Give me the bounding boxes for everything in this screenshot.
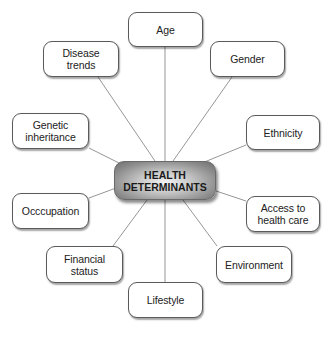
node-occupation: Occcupation xyxy=(12,193,89,229)
connector-ethnicity xyxy=(202,145,246,163)
node-disease-trends: Disease trends xyxy=(43,41,119,77)
connector-access-to-health-care xyxy=(216,191,246,201)
node-ethnicity: Ethnicity xyxy=(246,115,320,150)
node-gender: Gender xyxy=(210,41,285,77)
center-node-health-determinants: HEALTH DETERMINANTS xyxy=(114,161,216,200)
connector-occupation xyxy=(89,188,116,198)
node-financial-status: Financial status xyxy=(46,246,123,283)
health-determinants-mind-map: Age Disease trends Gender Genetic inheri… xyxy=(0,0,328,337)
connector-environment xyxy=(183,200,217,246)
node-lifestyle: Lifestyle xyxy=(128,282,203,318)
node-age: Age xyxy=(128,12,203,47)
node-environment: Environment xyxy=(216,246,292,283)
connector-gender xyxy=(173,77,232,161)
node-access-to-health-care: Access to health care xyxy=(246,196,320,232)
node-genetic-inheritance: Genetic inheritance xyxy=(12,113,89,149)
connector-disease-trends xyxy=(98,77,155,161)
connector-financial-status xyxy=(113,200,147,246)
